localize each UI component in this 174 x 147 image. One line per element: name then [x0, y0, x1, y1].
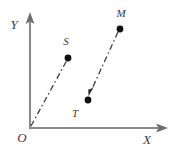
segment-o-to-s	[31, 60, 67, 126]
point-label-t: T	[72, 107, 79, 119]
m-to-t-line	[92, 32, 119, 90]
o-to-s-line	[31, 60, 67, 126]
m-to-t-arrowhead	[88, 87, 94, 97]
y-axis-label: Y	[10, 17, 19, 32]
point-label-m: M	[115, 7, 126, 19]
point-s	[65, 55, 72, 62]
figure-canvas: S M T Y O X	[0, 0, 174, 147]
origin-label: O	[17, 130, 27, 145]
points-group	[65, 26, 124, 104]
point-t	[85, 97, 92, 104]
segment-m-to-t	[88, 32, 118, 96]
diagram-svg: S M T Y O X	[0, 0, 174, 147]
x-axis-label: X	[142, 132, 152, 147]
point-label-s: S	[63, 35, 69, 47]
axes-group	[26, 12, 168, 132]
point-m	[117, 26, 124, 33]
point-labels-group: S M T	[63, 7, 126, 119]
